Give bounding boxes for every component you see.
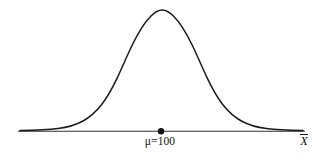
x-bar-axis-label: X bbox=[296, 134, 312, 148]
mean-point-marker bbox=[158, 128, 164, 134]
normal-curve-figure: μ=100 X bbox=[0, 0, 320, 160]
bell-curve-path bbox=[20, 10, 303, 131]
x-bar-glyph: X bbox=[300, 134, 308, 148]
mean-axis-label: μ=100 bbox=[0, 136, 320, 148]
